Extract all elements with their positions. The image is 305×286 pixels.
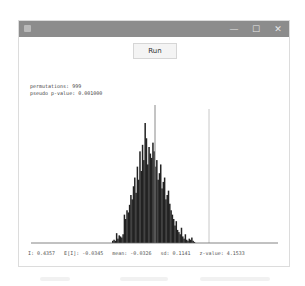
histogram-bar	[181, 228, 183, 243]
histogram-bar	[160, 164, 162, 243]
histogram-bar	[161, 188, 163, 243]
histogram-bar	[151, 158, 153, 243]
histogram-bar	[186, 240, 188, 243]
histogram-bar	[185, 234, 187, 243]
statistics-footer: I: 0.4357 E[I]: -0.0345 mean: -0.0326 sd…	[28, 250, 245, 256]
histogram-bar	[173, 219, 175, 243]
histogram-bar	[129, 205, 131, 243]
histogram-bar	[135, 193, 137, 243]
histogram-bar	[163, 182, 165, 243]
histogram-bar	[139, 151, 141, 243]
histogram-bar	[170, 210, 172, 243]
background-text	[200, 277, 270, 281]
histogram-bars	[112, 123, 195, 243]
histogram-bar	[179, 234, 181, 243]
histogram-bar	[146, 138, 148, 243]
histogram-bar	[177, 230, 179, 243]
histogram-bar	[130, 195, 132, 243]
histogram-bar	[183, 239, 185, 243]
histogram-bar	[142, 145, 144, 243]
histogram-bar	[141, 171, 143, 243]
histogram-bar	[182, 236, 184, 243]
histogram-bar	[137, 167, 139, 243]
histogram-bar	[157, 180, 159, 243]
histogram-bar	[178, 232, 180, 243]
histogram-bar	[169, 204, 171, 243]
histogram-bar	[174, 226, 176, 243]
histogram-bar	[166, 195, 168, 243]
histogram-bar	[148, 147, 150, 243]
histogram-bar	[150, 154, 152, 243]
histogram-bar	[125, 219, 127, 243]
histogram-bar	[147, 164, 149, 243]
histogram-bar	[126, 210, 128, 243]
histogram-bar	[159, 173, 161, 243]
histogram-bar	[143, 160, 145, 243]
histogram-bar	[190, 240, 192, 243]
histogram-bar	[191, 238, 193, 243]
histogram-bar	[164, 178, 166, 243]
histogram-bar	[124, 215, 126, 243]
histogram-bar	[122, 234, 124, 243]
histogram-bar	[113, 240, 115, 243]
histogram-bar	[121, 238, 123, 243]
histogram-bar	[168, 191, 170, 243]
background-text	[40, 277, 70, 281]
histogram-bar	[138, 180, 140, 243]
histogram-bar	[117, 239, 119, 243]
histogram-bar	[128, 212, 130, 243]
histogram-bar	[133, 186, 135, 243]
app-window: — ☐ ✕ Run permutations: 999pseudo p-valu…	[18, 20, 290, 267]
histogram-bar	[131, 199, 133, 243]
histogram-bar	[156, 160, 158, 243]
histogram-bar	[144, 123, 146, 243]
histogram-bar	[189, 239, 191, 243]
histogram-bar	[165, 199, 167, 243]
histogram-bar	[118, 235, 120, 243]
histogram-bar	[134, 178, 136, 243]
histogram-bar	[120, 236, 122, 243]
histogram-chart	[19, 21, 291, 268]
histogram-bar	[172, 215, 174, 243]
background-text	[120, 277, 168, 281]
histogram-bar	[152, 143, 154, 243]
histogram-bar	[176, 221, 178, 243]
histogram-bar	[116, 233, 118, 243]
